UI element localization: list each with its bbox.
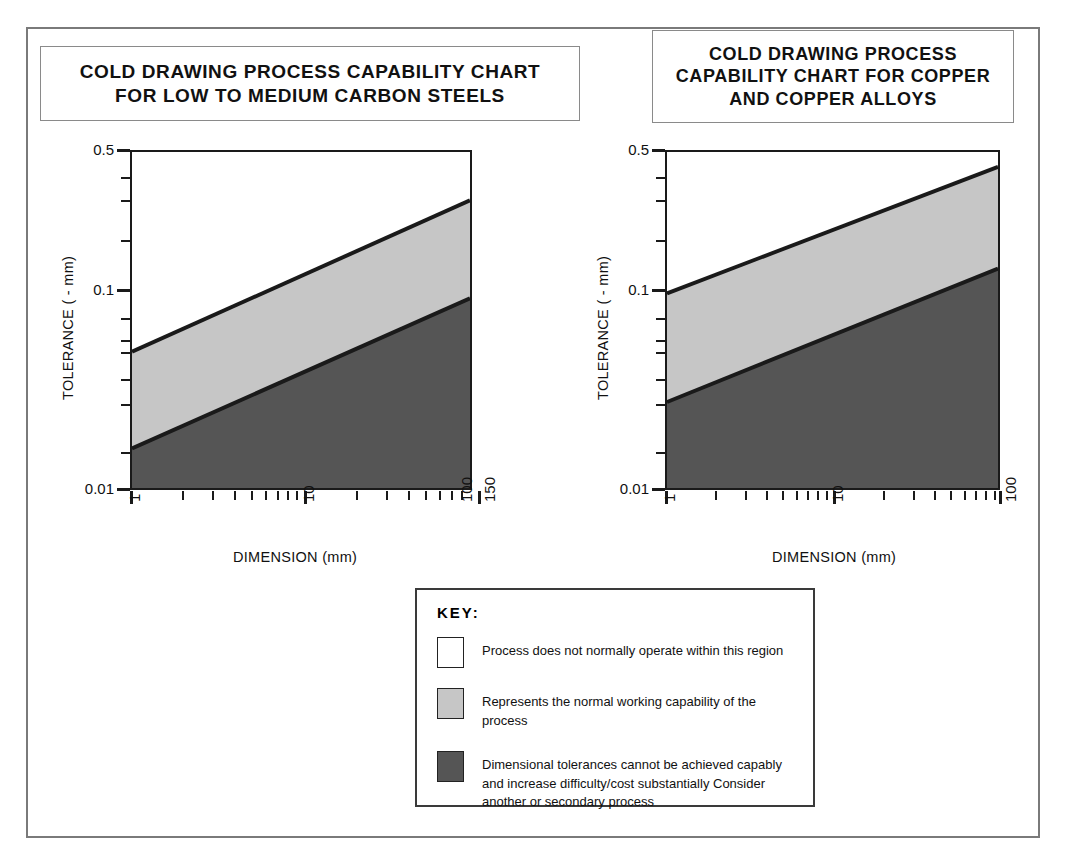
ytick-major-0.1-left — [117, 289, 130, 292]
key-label-dark-gray: Dimensional tolerances cannot be achieve… — [482, 751, 797, 813]
key-swatch-white — [437, 637, 464, 668]
ytick-0.4-left — [121, 177, 130, 179]
ytick-0.3-right — [656, 200, 665, 202]
xtick-4-right — [766, 491, 768, 500]
ytick-label-0.1-left: 0.1 — [76, 281, 114, 298]
plot-regions-left — [132, 152, 470, 488]
ytick-0.2-right — [656, 240, 665, 242]
xtick-8-left — [287, 491, 289, 500]
x-axis-title-right: DIMENSION (mm) — [772, 549, 896, 565]
key-swatch-light-gray — [437, 688, 464, 719]
xtick-7-right — [807, 491, 809, 500]
y-axis-title-right: TOLERANCE ( - mm) — [595, 256, 611, 400]
xtick-6-right — [796, 491, 798, 500]
xtick-9-left — [296, 491, 298, 500]
ytick-0.07-left — [121, 340, 130, 342]
xtick-30-left — [386, 491, 388, 500]
xtick-2-left — [182, 491, 184, 500]
xtick-90-right — [994, 491, 996, 500]
xtick-40-left — [408, 491, 410, 500]
ytick-0.04-left — [121, 404, 130, 406]
key-title: KEY: — [437, 604, 797, 621]
ytick-0.08-right — [656, 318, 665, 320]
ytick-label-0.01-left: 0.01 — [66, 480, 114, 497]
ytick-major-0.01-right — [652, 488, 665, 491]
ytick-0.07-right — [656, 340, 665, 342]
xtick-3-left — [212, 491, 214, 500]
ytick-major-0.01-left — [117, 488, 130, 491]
xtick-60-right — [964, 491, 966, 500]
xtick-label-150-left: 150 — [481, 477, 498, 502]
ytick-label-0.5-left: 0.5 — [76, 141, 114, 158]
xtick-label-10-right: 10 — [829, 485, 846, 502]
ytick-0.08-left — [121, 318, 130, 320]
xtick-label-100-left: 100 — [458, 477, 475, 502]
ytick-0.06-left — [121, 352, 130, 354]
xtick-3-right — [745, 491, 747, 500]
ytick-label-0.01-right: 0.01 — [601, 480, 649, 497]
key-row-dark-gray: Dimensional tolerances cannot be achieve… — [437, 751, 797, 813]
key-row-white: Process does not normally operate within… — [437, 637, 797, 668]
xtick-label-1-left: 1 — [126, 494, 143, 502]
xtick-50-right — [950, 491, 952, 500]
ytick-0.3-left — [121, 200, 130, 202]
ytick-0.2-left — [121, 240, 130, 242]
ytick-0.02-right — [656, 452, 665, 454]
xtick-2-right — [715, 491, 717, 500]
key-swatch-dark-gray — [437, 751, 464, 782]
xtick-40-right — [934, 491, 936, 500]
xtick-7-left — [277, 491, 279, 500]
xtick-70-right — [975, 491, 977, 500]
xtick-5-left — [251, 491, 253, 500]
ytick-major-0.1-right — [652, 289, 665, 292]
xtick-4-left — [234, 491, 236, 500]
key-legend-box: KEY: Process does not normally operate w… — [415, 588, 815, 807]
xtick-8-right — [817, 491, 819, 500]
plot-area-right — [665, 150, 1000, 490]
key-label-light-gray: Represents the normal working capability… — [482, 688, 797, 731]
ytick-major-0.5-right — [652, 149, 665, 152]
xtick-80-right — [985, 491, 987, 500]
xtick-5-right — [782, 491, 784, 500]
xtick-50-left — [425, 491, 427, 500]
key-label-white: Process does not normally operate within… — [482, 637, 783, 661]
xtick-20-left — [356, 491, 358, 500]
xtick-label-10-left: 10 — [300, 485, 317, 502]
ytick-0.04-right — [656, 404, 665, 406]
ytick-label-0.1-right: 0.1 — [611, 281, 649, 298]
plot-area-left — [130, 150, 472, 490]
xtick-30-right — [913, 491, 915, 500]
ytick-major-0.5-left — [117, 149, 130, 152]
xtick-20-right — [883, 491, 885, 500]
xtick-70-left — [451, 491, 453, 500]
xtick-label-100-right: 100 — [1002, 477, 1019, 502]
xtick-label-1-right: 1 — [661, 494, 678, 502]
xtick-9-right — [826, 491, 828, 500]
ytick-0.05-left — [121, 379, 130, 381]
xtick-6-left — [265, 491, 267, 500]
ytick-0.4-right — [656, 177, 665, 179]
plot-regions-right — [667, 152, 998, 488]
key-row-light-gray: Represents the normal working capability… — [437, 688, 797, 731]
y-axis-title-left: TOLERANCE ( - mm) — [60, 256, 76, 400]
xtick-60-left — [439, 491, 441, 500]
ytick-0.05-right — [656, 379, 665, 381]
ytick-0.06-right — [656, 352, 665, 354]
ytick-0.02-left — [121, 452, 130, 454]
ytick-label-0.5-right: 0.5 — [611, 141, 649, 158]
x-axis-title-left: DIMENSION (mm) — [233, 549, 357, 565]
